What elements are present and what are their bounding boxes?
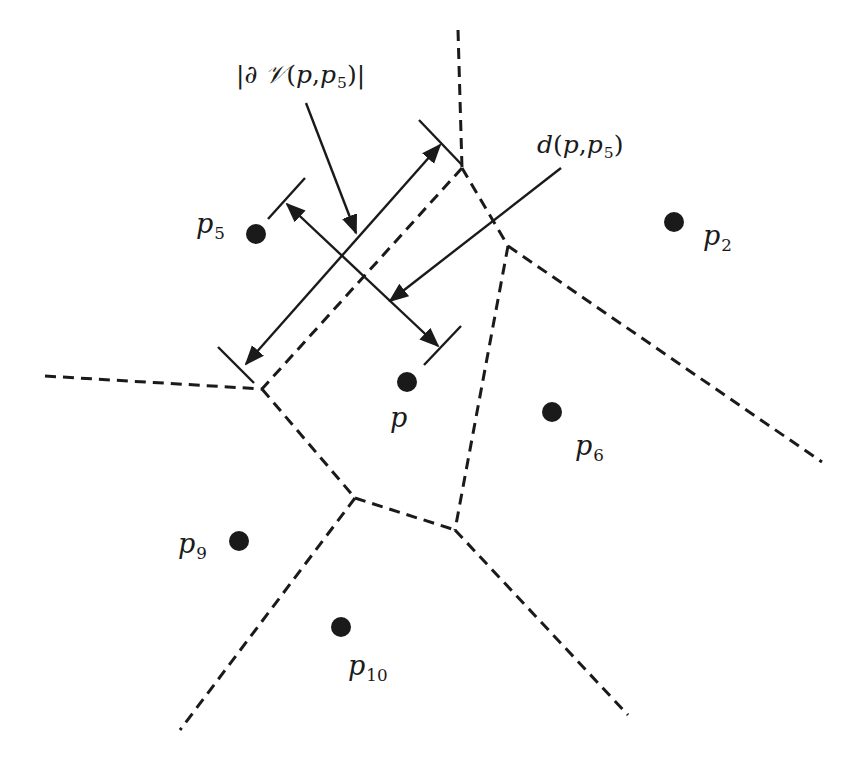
voronoi-edge: [458, 30, 462, 168]
voronoi-edge: [355, 498, 455, 530]
site-label-p2: p2: [703, 222, 732, 249]
boundary-length-annotation: |∂ 𝒱(p,p5)|: [236, 62, 365, 87]
dimension-tick: [218, 347, 254, 383]
site-point-p9: [229, 531, 249, 551]
distance-func: d: [537, 130, 553, 159]
site-label-p9: p9: [178, 530, 207, 557]
dimension-tick: [268, 178, 305, 219]
distance-arrow: [287, 204, 438, 346]
voronoi-edge: [262, 389, 355, 498]
site-point-p5: [246, 224, 266, 244]
site-point-p: [397, 372, 417, 392]
site-label-p10: p10: [348, 652, 388, 679]
voronoi-edge: [508, 246, 822, 462]
site-label-p5: p5: [196, 210, 225, 237]
site-point-p6: [542, 402, 562, 422]
voronoi-edge: [455, 530, 628, 715]
voronoi-edge: [455, 246, 508, 530]
voronoi-edge: [45, 376, 262, 389]
annotation-pointers: [306, 103, 561, 301]
dimension-tick: [424, 326, 461, 365]
cell-symbol: 𝒱: [265, 60, 286, 89]
site-label-p: p: [390, 404, 407, 431]
partial-symbol: ∂: [244, 60, 257, 89]
dimension-arrows: [218, 120, 462, 383]
voronoi-diagram-canvas: [0, 0, 858, 763]
boundary-length-arrow: [246, 145, 440, 364]
site-point-p10: [331, 617, 351, 637]
boundary-pointer: [306, 103, 356, 233]
dimension-tick: [419, 120, 462, 165]
distance-annotation: d(p,p5): [537, 132, 623, 157]
site-point-p2: [664, 212, 684, 232]
abs-bar-right: |: [357, 60, 365, 89]
site-label-p6: p6: [575, 432, 604, 459]
voronoi-edge: [462, 168, 508, 246]
